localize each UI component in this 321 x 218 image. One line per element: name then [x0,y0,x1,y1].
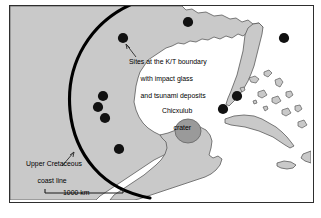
map-frame: Sites at the K/T boundary with impact gl… [9,5,314,203]
site-dot [218,104,228,114]
sites-annotation-line-3: and tsunami deposits [141,92,206,99]
site-dot [232,91,242,101]
crater-annotation-label: Chicxulub crater [162,107,192,132]
sites-annotation-line-2: with impact glass [141,75,193,82]
site-dot [100,113,110,123]
sites-annotation-label: Sites at the K/T boundary with impact gl… [129,58,207,100]
site-dot [183,17,193,27]
site-dot [93,102,103,112]
site-dot [114,144,124,154]
site-dot [98,91,108,101]
coastline-annotation-label: Upper Cretaceous coast line [26,160,82,185]
coastline-annotation-line-2: coast line [38,177,67,184]
crater-annotation-line-2: crater [174,124,192,131]
site-dot [118,33,128,43]
coastline-annotation-line-1: Upper Cretaceous [26,160,82,167]
site-dot [279,33,289,43]
crater-annotation-line-1: Chicxulub [162,107,192,114]
sites-annotation-line-1: Sites at the K/T boundary [129,58,207,65]
map-figure: Sites at the K/T boundary with impact gl… [0,0,321,218]
scale-bar-label: 1000 km [63,189,89,197]
